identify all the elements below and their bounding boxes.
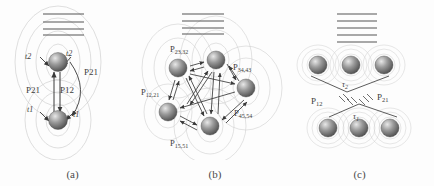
label-lower-right-rate: P45,54 xyxy=(234,108,252,119)
label-right-transfer: P12 xyxy=(60,85,74,95)
label-lower-right-rate: t1 xyxy=(73,110,79,119)
panel-a: t2 t2 t1 t1 P21 P12 P21 (a) xyxy=(0,0,145,186)
panel-b-caption: (b) xyxy=(140,168,290,180)
transfer-hatch-marks xyxy=(339,94,373,105)
label-upper-left-rate: t2 xyxy=(25,52,31,61)
label-left-transfer: P12 xyxy=(311,96,323,107)
upper-cluster-sphere xyxy=(309,56,327,74)
label-left-rate: P12,21 xyxy=(141,87,159,98)
label-upper-right-rate: t2 xyxy=(66,49,72,58)
energy-level-ladder xyxy=(337,14,377,42)
node-top-right xyxy=(207,51,225,69)
node-bottom-left xyxy=(159,103,177,121)
label-upper-tau: τ2 xyxy=(342,80,348,90)
panel-a-graphic: t2 t2 t1 t1 P21 P12 P21 xyxy=(0,0,145,160)
panel-a-caption: (a) xyxy=(0,168,145,180)
lower-cluster-sphere xyxy=(350,119,368,137)
label-lower-left-rate: t1 xyxy=(27,105,33,114)
lower-cluster-sphere xyxy=(381,119,399,137)
label-top-rate: P23,32 xyxy=(170,44,188,55)
upper-cluster-sphere xyxy=(375,56,393,74)
label-lower-tau: τ1 xyxy=(353,112,359,122)
figure-container: t2 t2 t1 t1 P21 P12 P21 (a) xyxy=(0,0,434,186)
field-rings-network xyxy=(142,16,282,160)
panel-c: τ2 τ1 P12 P21 (c) xyxy=(285,0,434,186)
node-top-left xyxy=(169,59,187,77)
upper-cluster-sphere xyxy=(342,56,360,74)
panel-c-caption: (c) xyxy=(285,168,434,180)
energy-level-ladder xyxy=(182,14,224,34)
label-left-transfer: P21 xyxy=(26,85,40,95)
upper-ion xyxy=(49,53,68,72)
panel-b-graphic: P23,32 P34,43 P12,21 P45,54 P15,51 xyxy=(140,0,290,160)
label-right-transfer: P21 xyxy=(377,92,389,103)
label-bottom-rate: P15,51 xyxy=(170,138,188,149)
lower-ion xyxy=(49,111,68,130)
panel-b: P23,32 P34,43 P12,21 P45,54 P15,51 (b) xyxy=(140,0,290,186)
panel-c-graphic: τ2 τ1 P12 P21 xyxy=(285,0,434,160)
node-bottom xyxy=(201,117,219,135)
label-curved-transfer: P21 xyxy=(84,67,98,77)
node-right xyxy=(237,79,255,97)
lower-cluster-sphere xyxy=(319,119,337,137)
label-right-rate: P34,43 xyxy=(233,62,251,73)
